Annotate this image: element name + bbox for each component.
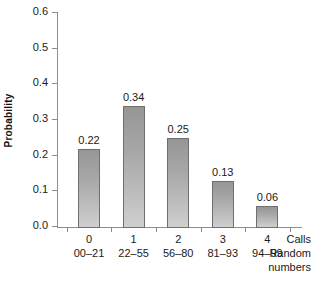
bar-value-label: 0.22 [69,134,109,146]
y-axis-tick-mark [52,48,57,49]
y-axis-tick-label: 0.4 [33,76,48,88]
y-axis-tick-mark [52,190,57,191]
y-axis-tick-label: 0.5 [33,41,48,53]
y-axis-tick-mark [52,83,57,84]
x-axis-tick-mark [201,228,202,232]
y-axis-tick-label: 0.0 [33,219,48,231]
y-axis-tick-mark [52,226,57,227]
axis-caption-calls: Calls [237,232,311,246]
bar-value-label: 0.06 [247,191,287,203]
y-axis-tick-label: 0.1 [33,183,48,195]
axis-caption-random: Random [237,246,311,260]
x-axis-tick-mark [156,228,157,232]
y-axis-tick-label: 0.3 [33,112,48,124]
axis-captions: Calls Random numbers [237,232,311,274]
bar [167,138,189,228]
y-axis-tick-label: 0.6 [33,5,48,17]
y-axis-line [57,12,58,228]
bar [123,106,145,228]
bar-value-label: 0.13 [203,166,243,178]
bar-value-label: 0.34 [114,91,154,103]
y-axis-title: Probability [0,0,18,240]
bar [212,181,234,228]
x-axis-tick-mark [111,228,112,232]
y-axis-tick-mark [52,12,57,13]
y-axis-tick-mark [52,119,57,120]
y-axis-tick-label: 0.2 [33,148,48,160]
bar-chart: Probability 0.00.10.20.30.40.50.6 0.220.… [0,0,317,282]
bar-value-label: 0.25 [158,123,198,135]
y-axis-tick-mark [52,155,57,156]
bar [256,206,278,228]
x-axis-tick-mark [67,228,68,232]
bar [78,149,100,228]
axis-caption-numbers: numbers [237,260,311,274]
y-axis-title-text: Probability [4,93,15,147]
